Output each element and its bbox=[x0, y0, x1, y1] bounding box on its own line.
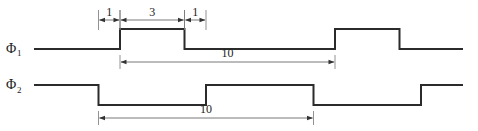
arrowhead-left bbox=[99, 18, 105, 22]
phi1-subscript: 1 bbox=[17, 48, 22, 58]
arrowhead-left bbox=[121, 18, 127, 22]
label-phi2: Φ 2 bbox=[6, 77, 22, 95]
waveforms bbox=[34, 29, 463, 105]
dimension-label: 10 bbox=[222, 46, 234, 60]
timing-diagram: Φ 1 Φ 2 1311010 bbox=[0, 0, 478, 131]
label-phi1: Φ 1 bbox=[6, 41, 22, 58]
phi2-subscript: 2 bbox=[17, 85, 22, 95]
waveform-phi1 bbox=[34, 29, 463, 49]
arrowhead-right bbox=[200, 18, 206, 22]
dimension-gap-before: 1 bbox=[99, 5, 121, 30]
dimension-label: 1 bbox=[106, 5, 112, 19]
arrowhead-left bbox=[121, 60, 127, 64]
arrowhead-right bbox=[307, 116, 313, 120]
arrowhead-left bbox=[99, 116, 105, 120]
arrowhead-right bbox=[329, 60, 335, 64]
phi2-symbol: Φ bbox=[6, 77, 16, 92]
dimension-label: 1 bbox=[192, 5, 198, 19]
arrowhead-right bbox=[178, 18, 184, 22]
dimension-label: 3 bbox=[149, 5, 155, 19]
arrowhead-right bbox=[114, 18, 120, 22]
dimension-label: 10 bbox=[200, 102, 212, 116]
dimension-phi1-high: 3 bbox=[120, 5, 185, 30]
waveform-phi2 bbox=[34, 85, 463, 105]
dimension-annotations: 1311010 bbox=[99, 5, 336, 125]
phi1-symbol: Φ bbox=[6, 41, 16, 56]
dimension-gap-after: 1 bbox=[185, 5, 207, 30]
arrowhead-left bbox=[185, 18, 191, 22]
